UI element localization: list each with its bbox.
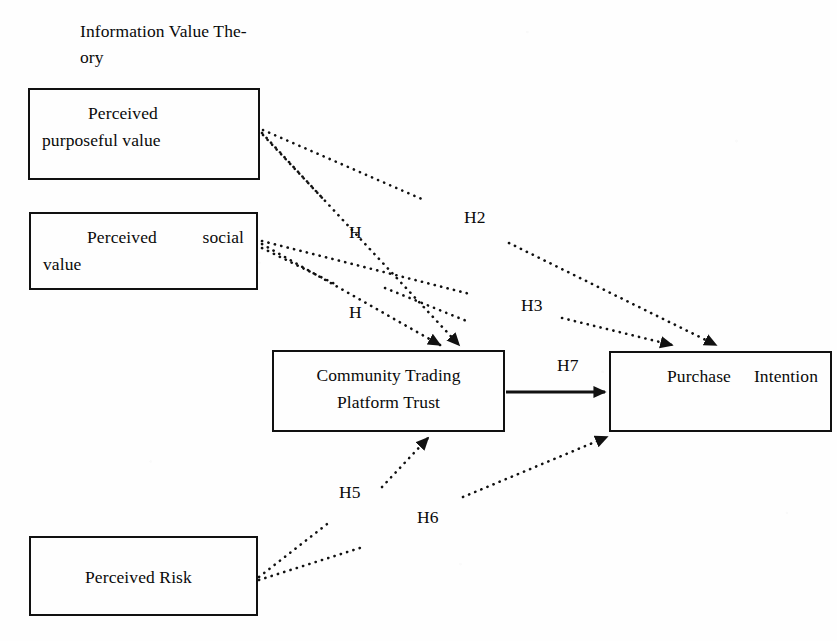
theory-label: Information Value The- ory <box>80 18 310 70</box>
node-perceived-risk[interactable]: Perceived Risk <box>29 536 258 616</box>
hypothesis-label-h2: H2 <box>464 207 486 227</box>
node-perceived-social-value[interactable]: Perceived social value <box>29 212 258 290</box>
research-model-figure: Information Value The- ory Perceived pur… <box>0 0 837 641</box>
edge-purposeful-to-intention <box>263 130 424 200</box>
node-community-trading-platform-trust[interactable]: Community Trading Platform Trust <box>272 350 505 432</box>
hypothesis-label-h3: H3 <box>521 295 543 315</box>
edge-social-to-intention-2 <box>562 318 672 345</box>
node-label: Community Trading Platform Trust <box>286 362 491 416</box>
edge-risk-to-trust <box>259 521 331 577</box>
node-perceived-purposeful-value[interactable]: Perceived purposeful value <box>28 88 260 180</box>
node-label: Perceived Risk <box>43 564 192 591</box>
hypothesis-label-h5: H5 <box>339 482 361 502</box>
edge-risk-to-intention-2 <box>463 437 607 497</box>
node-label: Perceived purposeful value <box>42 100 246 154</box>
edge-purposeful-stub <box>263 135 326 202</box>
edge-social-to-intention <box>262 241 470 294</box>
hypothesis-label-h7: H7 <box>557 355 579 375</box>
node-label: Purchase Intention <box>623 363 818 417</box>
hypothesis-label-h1a: H <box>349 222 362 242</box>
hypothesis-label-h6: H6 <box>417 507 439 527</box>
edge-cross-ray <box>385 288 469 322</box>
node-label: Perceived social value <box>43 224 244 305</box>
node-purchase-intention[interactable]: Purchase Intention <box>609 351 832 432</box>
hypothesis-label-h1b: H <box>349 302 362 322</box>
edge-risk-to-trust-2 <box>382 438 428 487</box>
edge-social-to-trust <box>262 244 440 345</box>
